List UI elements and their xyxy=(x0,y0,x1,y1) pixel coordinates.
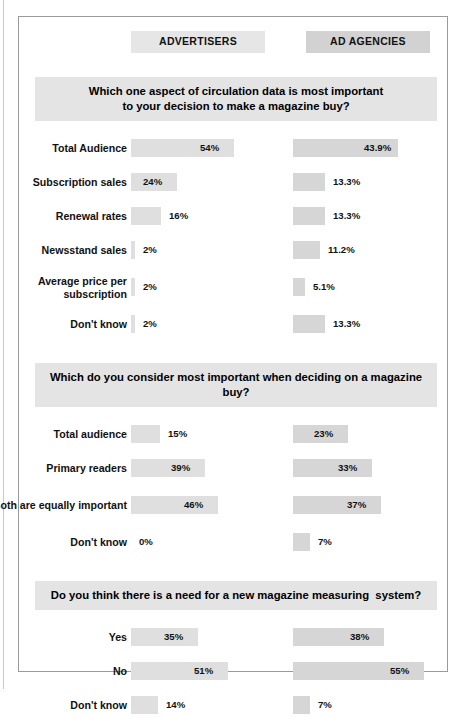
bar-value-advertisers: 2% xyxy=(143,241,157,259)
bar-advertisers xyxy=(131,696,158,714)
bar-row: No51%55% xyxy=(19,654,447,688)
bar-value-ad-agencies: 55% xyxy=(390,662,409,680)
bar-value-advertisers: 24% xyxy=(143,173,162,191)
bar-value-ad-agencies: 23% xyxy=(314,425,333,443)
column-header-advertisers: ADVERTISERS xyxy=(131,31,265,53)
question-section: Which one aspect of circulation data is … xyxy=(19,61,447,341)
bar-value-advertisers: 14% xyxy=(166,696,185,714)
bar-row-label: Both are equally important xyxy=(0,499,127,512)
bar-ad-agencies xyxy=(293,241,320,259)
bar-ad-agencies xyxy=(293,315,325,333)
bar-row-label: Don't know xyxy=(0,318,127,331)
bar-advertisers xyxy=(131,241,135,259)
bar-row: Don't know14%7% xyxy=(19,688,447,718)
bar-row: Don't know0%7% xyxy=(19,525,447,559)
banner-spacer xyxy=(19,121,447,131)
bar-ad-agencies xyxy=(293,696,310,714)
bar-ad-agencies xyxy=(293,278,305,296)
section-spacer xyxy=(19,559,447,581)
banner-spacer xyxy=(19,407,447,417)
bar-value-advertisers: 2% xyxy=(143,278,157,296)
question-banner: Which one aspect of circulation data is … xyxy=(35,77,437,121)
bar-value-ad-agencies: 13.3% xyxy=(333,207,360,225)
question-section: Which do you consider most important whe… xyxy=(19,341,447,559)
bar-value-advertisers: 35% xyxy=(164,628,183,646)
bar-row: Average price per subscription2%5.1% xyxy=(19,267,447,307)
bar-row: Both are equally important46%37% xyxy=(19,485,447,525)
bar-row-label: Subscription sales xyxy=(0,176,127,189)
bar-value-ad-agencies: 7% xyxy=(318,533,332,551)
bar-row-label: Renewal rates xyxy=(0,210,127,223)
bar-value-ad-agencies: 38% xyxy=(350,628,369,646)
bar-value-ad-agencies: 37% xyxy=(347,496,366,514)
chart-frame: ADVERTISERS AD AGENCIES Which one aspect… xyxy=(18,16,448,672)
bar-value-advertisers: 51% xyxy=(194,662,213,680)
bar-ad-agencies xyxy=(293,173,325,191)
chart-sections: Which one aspect of circulation data is … xyxy=(19,61,447,718)
bar-ad-agencies xyxy=(293,628,384,646)
bar-value-advertisers: 46% xyxy=(184,496,203,514)
bar-row: Primary readers39%33% xyxy=(19,451,447,485)
bar-value-ad-agencies: 33% xyxy=(338,459,357,477)
bar-row: Renewal rates16%13.3% xyxy=(19,199,447,233)
bar-row-label: Yes xyxy=(0,631,127,644)
question-section: Do you think there is a need for a new m… xyxy=(19,559,447,718)
column-headers: ADVERTISERS AD AGENCIES xyxy=(19,31,447,61)
bar-value-advertisers: 16% xyxy=(169,207,188,225)
bar-value-ad-agencies: 5.1% xyxy=(313,278,335,296)
bar-value-ad-agencies: 7% xyxy=(318,696,332,714)
bar-row: Newsstand sales2%11.2% xyxy=(19,233,447,267)
question-banner: Which do you consider most important whe… xyxy=(35,363,437,407)
bar-value-advertisers: 2% xyxy=(143,315,157,333)
bar-row-label: Primary readers xyxy=(0,462,127,475)
bar-row-label: Total audience xyxy=(0,428,127,441)
banner-spacer xyxy=(19,610,447,620)
bar-value-ad-agencies: 11.2% xyxy=(328,241,355,259)
bar-advertisers xyxy=(131,315,135,333)
bar-value-ad-agencies: 13.3% xyxy=(333,173,360,191)
bar-row: Subscription sales24%13.3% xyxy=(19,165,447,199)
bar-row: Yes35%38% xyxy=(19,620,447,654)
bar-ad-agencies xyxy=(293,533,310,551)
bar-row-label: Don't know xyxy=(0,699,127,712)
bar-value-ad-agencies: 13.3% xyxy=(333,315,360,333)
bar-advertisers xyxy=(131,278,135,296)
column-header-ad-agencies: AD AGENCIES xyxy=(306,31,430,53)
bar-ad-agencies xyxy=(293,207,325,225)
bar-advertisers xyxy=(131,207,161,225)
bar-value-advertisers: 39% xyxy=(171,459,190,477)
bar-row: Total Audience54%43.9% xyxy=(19,131,447,165)
page-edge-line xyxy=(3,0,4,689)
bar-advertisers xyxy=(131,459,205,477)
bar-row-label: No xyxy=(0,665,127,678)
bar-rows: Total audience15%23%Primary readers39%33… xyxy=(19,417,447,559)
bar-ad-agencies xyxy=(293,496,381,514)
bar-value-ad-agencies: 43.9% xyxy=(364,139,391,157)
bar-value-advertisers: 54% xyxy=(200,139,219,157)
bar-row-label: Don't know xyxy=(0,536,127,549)
bar-ad-agencies xyxy=(293,459,372,477)
bar-row: Total audience15%23% xyxy=(19,417,447,451)
bar-advertisers xyxy=(131,662,228,680)
bar-row: Don't know2%13.3% xyxy=(19,307,447,341)
section-spacer xyxy=(19,61,447,77)
bar-value-advertisers: 0% xyxy=(139,533,153,551)
bar-rows: Yes35%38%No51%55%Don't know14%7% xyxy=(19,620,447,718)
question-banner: Do you think there is a need for a new m… xyxy=(35,581,437,610)
bar-value-advertisers: 15% xyxy=(168,425,187,443)
bar-rows: Total Audience54%43.9%Subscription sales… xyxy=(19,131,447,341)
bar-advertisers xyxy=(131,496,218,514)
bar-advertisers xyxy=(131,425,160,443)
section-spacer xyxy=(19,341,447,363)
bar-row-label: Average price per subscription xyxy=(0,275,127,300)
bar-row-label: Total Audience xyxy=(0,142,127,155)
bar-row-label: Newsstand sales xyxy=(0,244,127,257)
